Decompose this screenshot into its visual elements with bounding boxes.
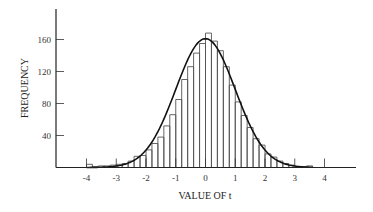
x-tick-label: -2 [142,173,150,183]
x-tick-label: -1 [172,173,180,183]
x-axis-ticks: -4-3-2-101234 [83,159,328,184]
x-axis-title: VALUE OF t [178,190,231,201]
y-tick-label: 120 [38,67,52,77]
histogram-bars [87,33,313,167]
y-tick-label: 80 [42,99,52,109]
y-axis-title: FREQUENCY [19,58,30,118]
x-tick-label: 1 [233,173,238,183]
x-tick-label: -4 [83,173,91,183]
histogram-chart: -4-3-2-101234 4080120160 VALUE OF t FREQ… [0,0,373,212]
x-tick-label: -3 [113,173,121,183]
y-tick-label: 40 [42,131,52,141]
histogram-bin-outline [87,33,313,167]
x-tick-label: 4 [322,173,327,183]
y-tick-label: 160 [38,35,52,45]
x-tick-label: 3 [293,173,298,183]
y-axis-ticks: 4080120160 [38,35,65,141]
x-tick-label: 0 [203,173,208,183]
x-tick-label: 2 [263,173,268,183]
